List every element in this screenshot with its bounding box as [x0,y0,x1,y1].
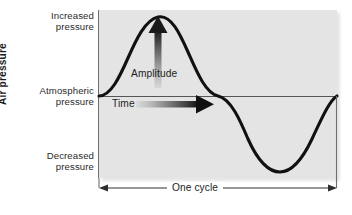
ytick-decreased-pressure: Decreased pressure [47,150,94,172]
ytick-decreased-line2: pressure [47,161,94,172]
figure-root: Increased pressure Atmospheric pressure … [0,0,352,215]
ytick-increased-line1: Increased [51,10,94,21]
ytick-atmospheric-line1: Atmospheric [40,85,94,96]
atmospheric-baseline [99,96,337,97]
y-axis-title: Air pressure [0,43,8,105]
one-cycle-label-wrap: One cycle [0,182,352,193]
amplitude-label: Amplitude [131,68,177,79]
ytick-atmospheric-pressure: Atmospheric pressure [40,85,94,107]
ytick-atmospheric-line2: pressure [40,96,94,107]
time-label: Time [112,98,135,109]
plot-panel [99,10,337,178]
figure-caption [4,203,304,215]
one-cycle-label: One cycle [167,182,223,193]
y-axis-line [98,10,99,178]
ytick-increased-line2: pressure [51,21,94,32]
ytick-increased-pressure: Increased pressure [51,10,94,32]
ytick-decreased-line1: Decreased [47,150,94,161]
